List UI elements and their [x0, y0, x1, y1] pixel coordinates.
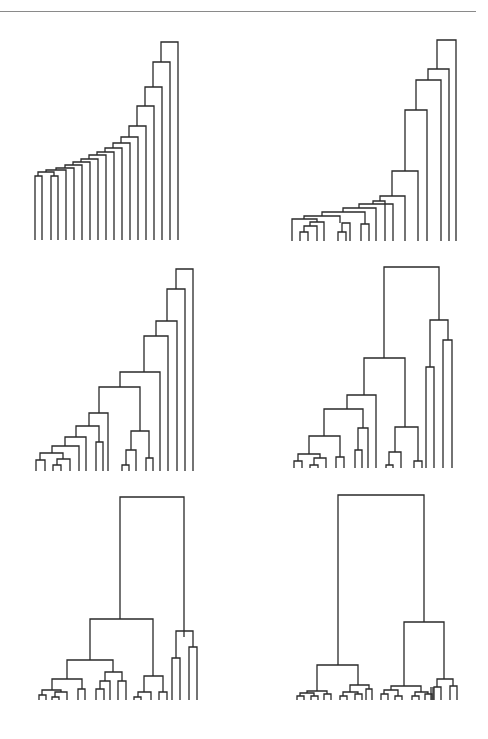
dendrogram-figure — [0, 0, 488, 739]
dendrogram-beta-0 — [36, 269, 193, 471]
dendrogram-beta-050 — [292, 40, 456, 241]
dendrogram-beta-neg050 — [39, 497, 197, 700]
dendrogram-beta-neg025 — [294, 267, 452, 468]
dendrogram-beta-098 — [35, 42, 178, 240]
dendrogram-beta-neg100 — [297, 495, 457, 700]
